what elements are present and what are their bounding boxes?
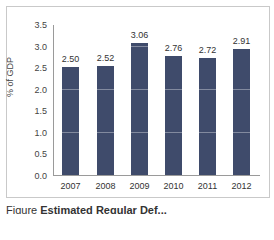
y-tick-label: 0.5	[17, 149, 47, 159]
caption-title: Estimated Regular Def...	[40, 204, 167, 214]
x-tick-label: 2007	[51, 181, 91, 191]
bar-value-label: 2.50	[51, 54, 91, 64]
y-tick-label: 1.5	[17, 106, 47, 116]
figure-caption: Figure Estimated Regular Def...	[6, 204, 167, 214]
x-axis-line	[53, 175, 260, 176]
bar	[131, 43, 148, 175]
y-tick-label: 3.5	[17, 20, 47, 30]
bar	[199, 58, 216, 175]
y-axis-line	[53, 25, 54, 176]
caption-prefix: Figure	[6, 204, 40, 214]
y-tick-label: 0.0	[17, 171, 47, 181]
plot-area: 0.00.51.01.52.02.53.03.5 2.5020072.52200…	[53, 25, 260, 176]
bar	[165, 56, 182, 175]
y-tick-label: 2.5	[17, 63, 47, 73]
bar-value-label: 3.06	[120, 30, 160, 40]
y-tick-label: 1.0	[17, 128, 47, 138]
bar	[62, 67, 79, 175]
x-tick-label: 2012	[222, 181, 262, 191]
bar-value-label: 2.52	[86, 53, 126, 63]
y-tick-label: 3.0	[17, 42, 47, 52]
bar-value-label: 2.91	[222, 36, 262, 46]
bar	[97, 66, 114, 175]
bar	[233, 49, 250, 175]
y-axis-label: % of GDP	[5, 57, 15, 97]
y-tick-label: 2.0	[17, 85, 47, 95]
